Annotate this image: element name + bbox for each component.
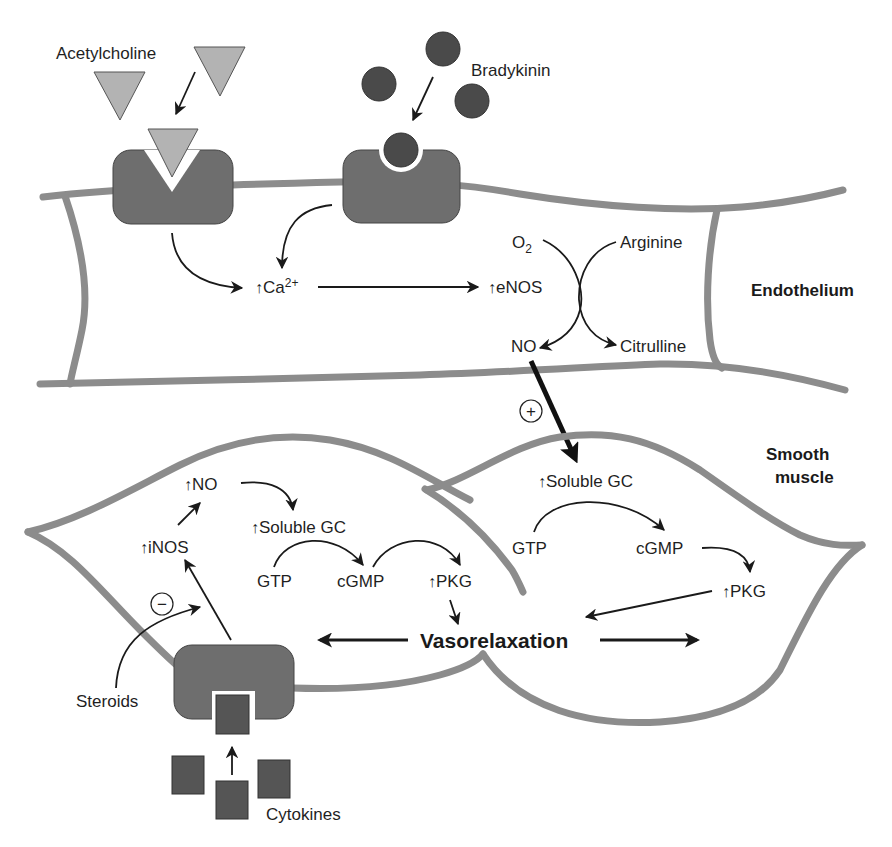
bradykinin-molecule [455,84,489,118]
inhibition-sign: − [151,593,173,615]
bradykinin-label: Bradykinin [471,61,550,80]
nitric-oxide-pathway-diagram: Acetylcholine Bradykinin ↑Ca2+ ↑eNOS O2 … [0,0,892,847]
up-arrow-icon: ↑ [184,476,192,493]
left-cgmp-to-pkg-arrow [373,541,460,567]
bradykinin-molecule [362,67,396,101]
right-pkg-to-vasorelaxation-arrow [586,591,712,617]
cytokine-molecule [172,756,204,794]
bradykinin-molecule [426,32,460,66]
vasorelaxation-label: Vasorelaxation [420,629,568,652]
arginine-to-citrulline-arc [579,242,616,345]
bradykinin-receptor [343,128,460,223]
up-arrow-icon: ↑ [251,519,259,536]
cytokine-receptor [174,645,294,734]
left-gtp-label: GTP [257,572,292,591]
acetylcholine-label: Acetylcholine [56,44,156,63]
up-arrow-icon: ↑ [488,279,496,296]
left-pkg-to-vasorelaxation-arrow [450,600,458,624]
bk-to-calcium-arrow [282,205,332,268]
up-arrow-icon: ↑ [255,279,263,296]
svg-text:+: + [526,402,536,421]
right-soluble-gc-label: ↑Soluble GC [538,472,633,491]
endothelium-region-label: Endothelium [751,281,854,300]
bradykinin-binding-arrow [413,77,433,120]
endothelium-right-junction [708,210,722,368]
oxygen-to-no-arc [540,240,581,348]
inos-label: ↑iNOS [140,538,189,557]
right-gtp-to-cgmp-arrow [534,502,664,532]
right-cgmp-to-pkg-arrow [702,548,750,572]
smooth-muscle-left-base [292,654,483,688]
endothelium-left-junction [65,196,85,384]
smooth-muscle-region-label-line2: muscle [775,468,834,487]
cytokines-label: Cytokines [266,805,341,824]
cytokine-molecule [216,781,248,819]
receptor-to-inos-arrow [185,560,231,640]
up-arrow-icon: ↑ [538,473,546,490]
inos-to-no-arrow [178,503,200,525]
svg-text:−: − [157,595,167,614]
acetylcholine-binding-arrow [176,72,195,114]
left-pkg-label: ↑PKG [428,572,472,591]
stimulation-sign: + [520,400,542,422]
enos-label: ↑eNOS [488,278,542,297]
oxygen-label: O2 [512,233,532,256]
endothelial-no-label: NO [511,337,537,356]
left-soluble-gc-label: ↑Soluble GC [251,518,346,537]
arginine-label: Arginine [620,233,682,252]
no-to-soluble-gc-arrow [241,482,293,510]
right-cgmp-label: cGMP [636,539,683,558]
calcium-label: ↑Ca2+ [255,276,298,297]
up-arrow-icon: ↑ [722,583,730,600]
smooth-muscle-left-upper-membrane [28,437,470,532]
steroids-label: Steroids [76,692,138,711]
smooth-muscle-no-label: ↑NO [184,475,218,494]
right-pkg-label: ↑PKG [722,582,766,601]
up-arrow-icon: ↑ [428,573,436,590]
up-arrow-icon: ↑ [140,539,148,556]
cytokine-molecule [258,760,290,798]
right-gtp-label: GTP [512,539,547,558]
acetylcholine-molecule [94,72,145,120]
left-gtp-to-cgmp-arrow [274,541,363,567]
ach-to-calcium-arrow [172,233,242,288]
acetylcholine-molecule [194,47,245,96]
citrulline-label: Citrulline [620,337,686,356]
left-cgmp-label: cGMP [337,572,384,591]
smooth-muscle-region-label-line1: Smooth [766,445,829,464]
